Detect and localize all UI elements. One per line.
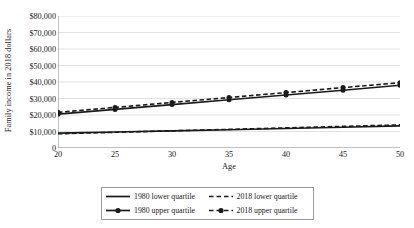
plot-area [58, 16, 400, 148]
legend-item: 1980 upper quartile [105, 206, 208, 215]
y-axis-tick-label: $50,000 [29, 61, 56, 70]
y-axis-tick-label: $40,000 [29, 78, 56, 87]
legend-swatch-dashed-line [208, 192, 234, 201]
y-axis-title-text: Family income in 2018 dollars [5, 28, 14, 131]
y-axis-tick-label: $30,000 [29, 94, 56, 103]
data-point-marker [170, 100, 175, 105]
legend-item: 2018 lower quartile [208, 192, 311, 201]
x-axis-tick-label: 30 [168, 150, 176, 159]
x-axis-tick-label: 25 [111, 150, 119, 159]
data-point-marker [341, 85, 346, 90]
chart-canvas [58, 16, 400, 148]
y-axis-tick-label: $20,000 [29, 111, 56, 120]
y-axis-tick-labels: 0$10,000$20,000$30,000$40,000$50,000$60,… [14, 0, 56, 160]
data-point-marker [113, 105, 118, 110]
data-point-marker [284, 90, 289, 95]
legend-label: 1980 lower quartile [134, 192, 195, 201]
legend-label: 2018 upper quartile [237, 206, 298, 215]
legend-swatch-solid-line [105, 206, 131, 215]
data-point-marker [227, 95, 232, 100]
chart-figure: Family income in 2018 dollars 0$10,000$2… [0, 0, 414, 228]
x-axis-tick-label: 45 [339, 150, 347, 159]
x-axis-tick-label: 20 [54, 150, 62, 159]
chart-legend: 1980 lower quartile2018 lower quartile19… [101, 187, 314, 220]
x-axis-tick-label: 35 [225, 150, 233, 159]
x-axis-title: Age [58, 162, 400, 171]
legend-swatch-dashed-line [208, 206, 234, 215]
x-axis-tick-label: 40 [282, 150, 290, 159]
legend-swatch-solid-line [105, 192, 131, 201]
legend-item: 1980 lower quartile [105, 192, 208, 201]
legend-label: 1980 upper quartile [134, 206, 195, 215]
y-axis-tick-label: $60,000 [29, 45, 56, 54]
y-axis-tick-label: $80,000 [29, 12, 56, 21]
legend-label: 2018 lower quartile [237, 192, 298, 201]
legend-item: 2018 upper quartile [208, 206, 311, 215]
series-line [58, 125, 400, 134]
x-axis-tick-label: 50 [396, 150, 404, 159]
y-axis-tick-label: $10,000 [29, 127, 56, 136]
y-axis-tick-label: $70,000 [29, 28, 56, 37]
